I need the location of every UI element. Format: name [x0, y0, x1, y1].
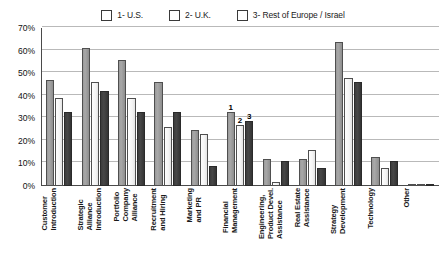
- bar-s3-1: [100, 91, 108, 186]
- bar-s2-4: [200, 134, 208, 186]
- bar-s1-10: [408, 184, 416, 186]
- legend-swatch-series-2: [169, 10, 180, 21]
- x-tick-label: Recruitment and Hiring: [150, 188, 186, 231]
- x-tick-label: Real Estate Assistance: [294, 188, 330, 227]
- legend-swatch-series-1: [101, 10, 112, 21]
- y-tick-label: 20%: [18, 136, 35, 146]
- x-tick-label: Engineering, Product Devel. Assistance: [258, 188, 294, 239]
- bar-s2-6: [272, 182, 280, 187]
- y-axis: 70%60%50%40%30%20%10%0%: [0, 28, 38, 186]
- y-tick-label: 50%: [18, 68, 35, 78]
- bar-group: [403, 28, 439, 186]
- bar-group: [77, 28, 113, 186]
- bar-s3-9: [390, 161, 398, 186]
- bar-s2-1: [91, 82, 99, 186]
- bar-group: [150, 28, 186, 186]
- bar-group: [186, 28, 222, 186]
- bar-s2-0: [55, 98, 63, 186]
- y-tick-label: 40%: [18, 91, 35, 101]
- chart-legend: 1- U.S. 2- U.K. 3- Rest of Europe / Isra…: [0, 4, 446, 26]
- bar-annotation: 3: [247, 113, 251, 121]
- legend-label-series-2: 2- U.K.: [185, 10, 211, 20]
- bar-s1-5: 1: [227, 112, 235, 186]
- bars-layer: 123: [41, 28, 439, 186]
- bar-s2-8: [344, 78, 352, 186]
- bar-annotation: 1: [229, 104, 233, 112]
- bar-s3-6: [281, 161, 289, 186]
- x-tick-label: Technology: [367, 188, 403, 229]
- x-tick-label: Marketing and PR: [186, 188, 222, 223]
- y-tick-label: 10%: [18, 158, 35, 168]
- bar-annotation: 2: [238, 117, 242, 125]
- bar-s1-3: [154, 82, 162, 186]
- bar-s3-4: [209, 166, 217, 186]
- legend-label-series-1: 1- U.S.: [117, 10, 143, 20]
- bar-s2-5: 2: [236, 125, 244, 186]
- bar-chart: 1- U.S. 2- U.K. 3- Rest of Europe / Isra…: [0, 0, 446, 272]
- gridline: [42, 26, 439, 27]
- bar-s1-6: [263, 159, 271, 186]
- y-tick-label: 0%: [23, 181, 35, 191]
- bar-s1-8: [335, 42, 343, 186]
- bar-s2-3: [164, 127, 172, 186]
- bar-group: 123: [222, 28, 258, 186]
- bar-s1-4: [191, 130, 199, 186]
- bar-s3-8: [354, 82, 362, 186]
- legend-entry-rest-of-europe: 3- Rest of Europe / Israel: [237, 10, 345, 21]
- bar-s1-1: [82, 48, 90, 186]
- bar-group: [330, 28, 366, 186]
- bar-s1-7: [299, 159, 307, 186]
- bar-group: [294, 28, 330, 186]
- legend-swatch-series-3: [237, 10, 248, 21]
- bar-s1-2: [118, 60, 126, 186]
- x-tick-label: Financial Management: [222, 188, 258, 233]
- y-tick-label: 60%: [18, 46, 35, 56]
- y-tick-label: 30%: [18, 113, 35, 123]
- bar-s1-9: [371, 157, 379, 186]
- bar-group: [258, 28, 294, 186]
- y-tick-label: 70%: [18, 23, 35, 33]
- bar-group: [367, 28, 403, 186]
- x-tick-label: Strategic Alliance Introduction: [77, 188, 113, 231]
- bar-s3-3: [173, 112, 181, 186]
- bar-s3-2: [137, 112, 145, 186]
- x-tick-label: Customer Introduction: [41, 188, 77, 231]
- legend-entry-uk: 2- U.K.: [169, 10, 211, 21]
- bar-group: [41, 28, 77, 186]
- bar-s2-9: [381, 168, 389, 186]
- x-tick-label: Strategy Development: [330, 188, 366, 234]
- x-tick-label: Portfolio Company Alliance: [113, 188, 149, 222]
- bar-s3-10: [426, 184, 434, 186]
- bar-s3-5: 3: [245, 121, 253, 186]
- legend-label-series-3: 3- Rest of Europe / Israel: [253, 10, 345, 20]
- x-tick-label: Other: [403, 188, 439, 208]
- bar-s3-0: [64, 112, 72, 186]
- x-axis: Customer IntroductionStrategic Alliance …: [41, 188, 439, 272]
- bar-s2-7: [308, 150, 316, 186]
- legend-entry-us: 1- U.S.: [101, 10, 143, 21]
- bar-s3-7: [317, 168, 325, 186]
- bar-s2-10: [417, 184, 425, 186]
- bar-s1-0: [46, 80, 54, 186]
- bar-s2-2: [127, 98, 135, 186]
- bar-group: [113, 28, 149, 186]
